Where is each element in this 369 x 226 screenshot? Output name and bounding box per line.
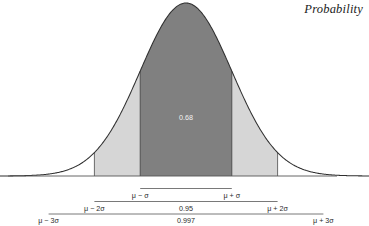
probability-label-68: 0.68 <box>179 113 193 122</box>
normal-distribution-figure: 0.68 μ − σ μ + σ μ − 2σ 0.95 μ + 2σ μ − … <box>0 0 369 226</box>
distribution-chart: 0.68 μ − σ μ + σ μ − 2σ 0.95 μ + 2σ μ − … <box>0 0 369 226</box>
tick-label-plus-2-sigma: μ + 2σ <box>267 204 288 213</box>
probability-label-997: 0.997 <box>177 216 195 225</box>
page-title: Probability <box>304 2 363 17</box>
tick-label-plus-3-sigma: μ + 3σ <box>313 216 334 225</box>
tick-label-minus-2-sigma: μ − 2σ <box>84 204 105 213</box>
tick-label-minus-3-sigma: μ − 3σ <box>38 216 59 225</box>
probability-label-95: 0.95 <box>179 204 193 213</box>
tick-label-minus-1-sigma: μ − σ <box>132 191 149 200</box>
tick-label-plus-1-sigma: μ + σ <box>223 191 240 200</box>
